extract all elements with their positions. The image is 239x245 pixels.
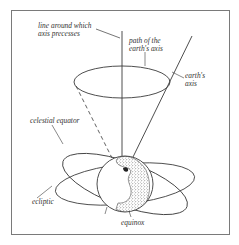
celestial-equator-leader <box>52 125 63 144</box>
precession-label-leader <box>96 29 120 38</box>
earth-globe <box>97 156 153 216</box>
label-equinox: equinox <box>121 219 144 227</box>
earth-axis-leader <box>172 72 184 78</box>
label-celestial-equator: celestial equator <box>30 117 79 125</box>
label-axis-path: path of the earth's axis <box>129 37 163 53</box>
label-precession-line: line around which axis precesses <box>38 22 92 38</box>
label-ecliptic: ecliptic <box>32 198 54 206</box>
label-earth-axis: earth's axis <box>185 72 205 88</box>
